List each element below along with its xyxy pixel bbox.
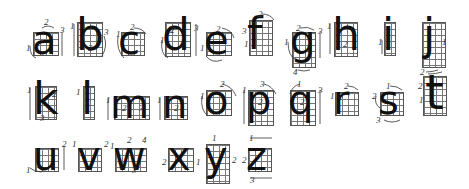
stroke-direction-arrows-icon: [0, 0, 469, 189]
